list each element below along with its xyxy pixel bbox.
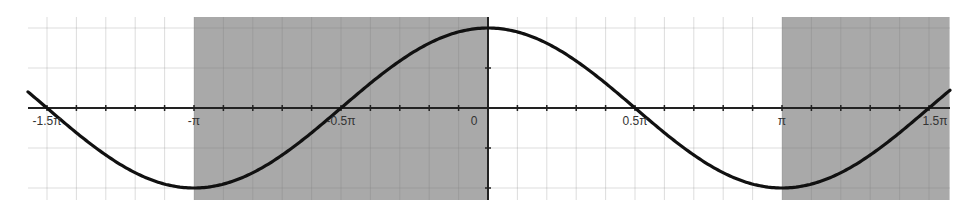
- cosine-chart: -1.5π -π -0.5π 0 0.5π π 1.5π: [0, 0, 971, 210]
- x-tick-label: -π: [188, 114, 200, 128]
- x-tick-label: -1.5π: [33, 114, 62, 128]
- x-tick-label: 0: [471, 114, 478, 128]
- x-tick-label: -0.5π: [327, 114, 356, 128]
- x-tick-label: 1.5π: [923, 114, 948, 128]
- x-tick-label: π: [778, 114, 786, 128]
- x-tick-label: 0.5π: [623, 114, 648, 128]
